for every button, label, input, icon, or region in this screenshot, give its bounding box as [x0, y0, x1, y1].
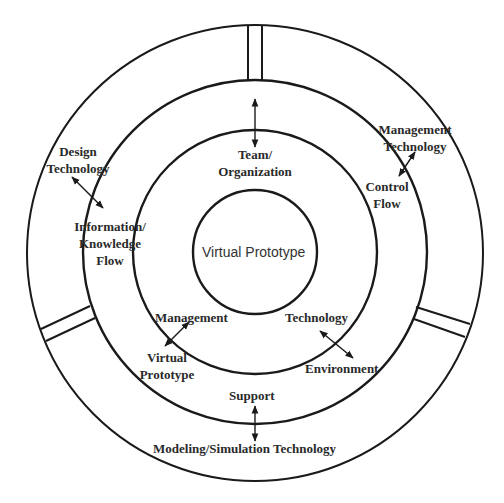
- label-virtual-prototype: Virtual Prototype: [132, 349, 202, 383]
- label-management-technology: Management Technology: [370, 121, 460, 155]
- label-line: Virtual: [132, 349, 202, 366]
- label-modeling-simulation: Modeling/Simulation Technology: [153, 440, 336, 457]
- right-divider: [414, 307, 470, 337]
- arrow-tech-env: [320, 331, 353, 358]
- left-divider: [41, 306, 95, 341]
- label-control-flow: Control Flow: [357, 178, 417, 212]
- label-environment: Environment: [305, 360, 378, 377]
- label-line: Prototype: [132, 366, 202, 383]
- label-line: Information/: [65, 218, 155, 235]
- label-line: Team/: [205, 146, 305, 163]
- label-line: Flow: [357, 195, 417, 212]
- label-design-technology: Design Technology: [38, 143, 118, 177]
- top-divider: [248, 25, 262, 81]
- center-label: Virtual Prototype: [202, 244, 305, 260]
- label-line: Knowledge: [65, 235, 155, 252]
- label-line: Control: [357, 178, 417, 195]
- label-team-organization: Team/ Organization: [205, 146, 305, 180]
- label-management: Management: [155, 309, 228, 326]
- label-line: Design: [38, 143, 118, 160]
- label-support: Support: [229, 387, 275, 404]
- label-line: Management: [370, 121, 460, 138]
- label-technology: Technology: [285, 309, 348, 326]
- label-line: Flow: [65, 252, 155, 269]
- label-information-knowledge-flow: Information/ Knowledge Flow: [65, 218, 155, 269]
- label-line: Technology: [370, 138, 460, 155]
- label-line: Technology: [38, 160, 118, 177]
- label-line: Organization: [205, 163, 305, 180]
